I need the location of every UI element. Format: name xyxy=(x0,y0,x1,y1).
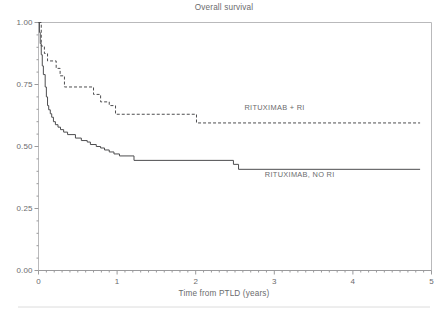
series-line-1 xyxy=(39,23,421,170)
axis-ticks xyxy=(35,23,432,275)
chart-title: Overall survival xyxy=(0,3,448,12)
series-line-0 xyxy=(39,23,421,123)
series-lines xyxy=(39,23,421,170)
series-label-1: RITUXIMAB, NO RI xyxy=(265,170,335,179)
y-tick-label: 1.00 xyxy=(7,18,33,27)
plot-canvas xyxy=(0,0,448,316)
y-tick-label: 0.00 xyxy=(7,266,33,275)
survival-chart-figure: Overall survival 0.000.250.500.751.00012… xyxy=(0,0,448,316)
x-axis-label: Time from PTLD (years) xyxy=(0,289,448,298)
y-tick-label: 0.50 xyxy=(7,142,33,151)
series-label-0: RITUXIMAB + RI xyxy=(244,103,304,112)
x-tick-label: 2 xyxy=(188,277,204,286)
x-tick-label: 1 xyxy=(109,277,125,286)
y-tick-label: 0.75 xyxy=(7,80,33,89)
y-tick-label: 0.25 xyxy=(7,204,33,213)
x-tick-label: 4 xyxy=(345,277,361,286)
x-tick-label: 0 xyxy=(31,277,47,286)
x-tick-label: 3 xyxy=(266,277,282,286)
x-tick-label: 5 xyxy=(424,277,440,286)
